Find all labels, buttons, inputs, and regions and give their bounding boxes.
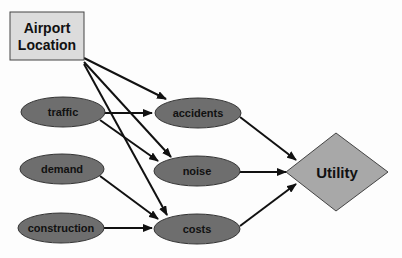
edge-costs-utility (240, 184, 296, 226)
traffic-label: traffic (48, 106, 79, 118)
airport-label-line1: Airport (24, 20, 71, 36)
costs-label: costs (183, 223, 212, 235)
edges (84, 58, 296, 228)
influence-diagram: Airport Location traffic demand construc… (0, 0, 402, 258)
edge-accidents-utility (240, 117, 296, 160)
decision-node-airport-location[interactable]: Airport Location (10, 12, 84, 60)
edge-traffic-noise (100, 120, 158, 161)
edge-airport-accidents (84, 58, 166, 99)
demand-label: demand (41, 163, 83, 175)
accidents-label: accidents (173, 107, 224, 119)
chance-node-demand[interactable]: demand (20, 154, 104, 184)
utility-label: Utility (316, 164, 358, 181)
noise-label: noise (183, 165, 212, 177)
construction-label: construction (28, 222, 95, 234)
utility-node[interactable]: Utility (286, 133, 388, 211)
chance-node-noise[interactable]: noise (154, 156, 240, 186)
chance-node-costs[interactable]: costs (154, 214, 240, 244)
chance-node-construction[interactable]: construction (18, 213, 104, 243)
chance-node-traffic[interactable]: traffic (21, 97, 105, 127)
airport-label-line2: Location (18, 37, 76, 53)
chance-node-accidents[interactable]: accidents (155, 98, 241, 128)
